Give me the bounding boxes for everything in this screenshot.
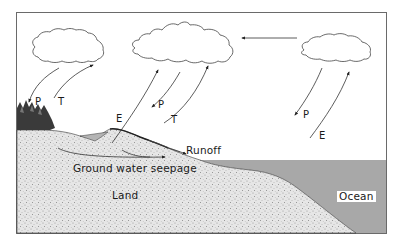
label-runoff: Runoff (186, 145, 221, 156)
label-right-evaporation: E (319, 131, 325, 141)
label-middle-evaporation: E (116, 114, 122, 124)
label-middle-transpiration: T (171, 115, 177, 125)
label-left-precipitation: P (35, 97, 41, 107)
label-right-precipitation: P (303, 110, 309, 120)
label-middle-precipitation: P (158, 100, 164, 110)
label-land: Land (112, 190, 138, 201)
diagram-canvas (0, 0, 395, 239)
label-ocean: Ocean (337, 191, 376, 202)
label-left-transpiration: T (58, 97, 64, 107)
label-ground-water-seepage: Ground water seepage (73, 163, 197, 174)
water-cycle-diagram: P T E P T P E Runoff Ground water seepag… (0, 0, 395, 239)
